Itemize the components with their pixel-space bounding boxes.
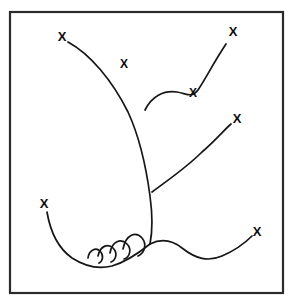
marker-upper-right-mid: X: [189, 86, 197, 100]
marker-middle-right-tip: X: [233, 111, 242, 126]
marker-upper-left-tip: X: [58, 29, 67, 44]
marker-lower-left-tip: X: [40, 196, 49, 211]
marker-lower-right-tip: X: [253, 224, 262, 239]
line-diagram-canvas: XXXXXXX: [0, 0, 293, 306]
marker-upper-right-tip: X: [229, 24, 238, 39]
marker-upper-left-mid: X: [120, 57, 128, 71]
figure-frame-border: [10, 12, 283, 293]
figure-root: XXXXXXX: [0, 0, 293, 306]
